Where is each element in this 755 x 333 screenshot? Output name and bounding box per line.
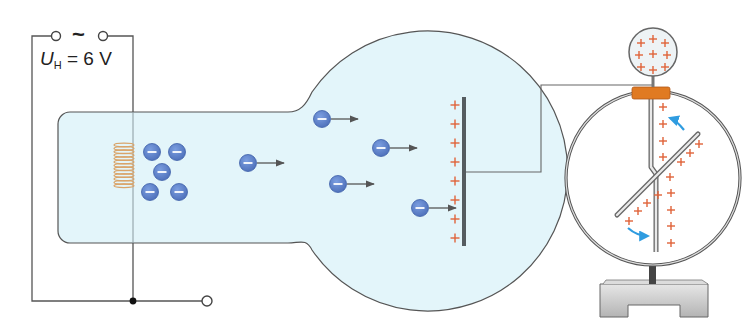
voltage-label: UH = 6 V: [40, 48, 112, 71]
electroscope-clamp: [632, 87, 670, 99]
voltage-symbol: U: [40, 48, 54, 69]
electron: [144, 144, 161, 161]
voltage-value: 6 V: [83, 48, 112, 69]
terminal-output: [202, 296, 212, 306]
diagram-canvas: [0, 0, 755, 333]
ac-source-symbol: ~: [72, 22, 85, 48]
figure: ~ UH = 6 V: [0, 0, 755, 333]
voltage-equals: =: [67, 48, 78, 69]
electron: [169, 144, 186, 161]
vacuum-tube: [58, 31, 568, 311]
collector-plate: [462, 97, 466, 246]
electron: [171, 184, 188, 201]
electron: [142, 184, 159, 201]
terminal-left: [52, 32, 61, 41]
junction-dot: [130, 298, 137, 305]
terminal-right: [99, 32, 108, 41]
sphere-charges: [635, 35, 671, 74]
electron: [154, 164, 171, 181]
electroscope-base: [600, 284, 708, 317]
voltage-subscript: H: [54, 59, 62, 71]
